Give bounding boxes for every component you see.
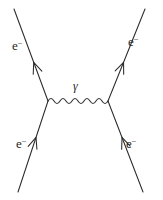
fermion-arrowheads-group [28,62,130,149]
outgoing-electron-left-line [14,9,48,101]
label-outgoing-electron-right: e− [128,34,139,50]
particle-labels-group: e− e− e− e− γ [12,34,139,152]
feynman-diagram-canvas: e− e− e− e− γ [0,0,163,200]
incoming-electron-left-line [18,101,48,192]
label-virtual-photon: γ [73,79,78,93]
outgoing-electron-right-line [108,9,145,101]
fermion-legs-group [14,9,145,192]
virtual-photon-propagator [48,99,108,104]
feynman-diagram-svg: e− e− e− e− γ [0,0,163,200]
label-incoming-electron-left: e− [16,136,27,152]
label-outgoing-electron-left: e− [12,38,23,54]
label-incoming-electron-right: e− [126,136,137,152]
